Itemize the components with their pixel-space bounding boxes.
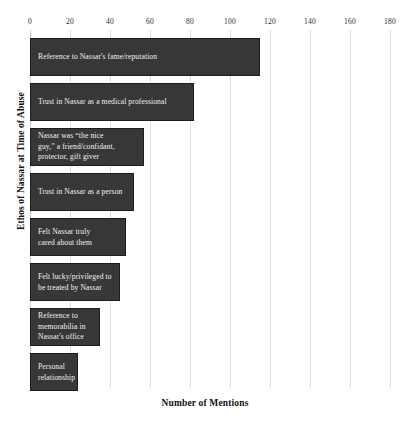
bar-1[interactable]: Trust in Nassar as a medical professiona…	[30, 83, 194, 121]
bar-label-line: guy,” a friend/confidant,	[38, 142, 139, 153]
bar-label-line: Nassar was “the nice	[38, 131, 139, 142]
bar-label-4: Felt Nassar truly cared about them	[38, 227, 121, 248]
gridline-160	[350, 30, 351, 388]
x-tick-label-180: 180	[384, 17, 396, 26]
gridline-100	[230, 30, 231, 388]
bar-label-line: Felt lucky/privileged to	[38, 272, 115, 283]
x-tick-label-0: 0	[28, 17, 32, 26]
bar-label-line: relationship	[38, 372, 73, 383]
bar-7[interactable]: Personal relationship	[30, 353, 78, 391]
bar-label-1: Trust in Nassar as a medical professiona…	[38, 97, 189, 108]
bar-label-line: Reference to Nassar's fame/reputation	[38, 52, 255, 63]
gridline-140	[310, 30, 311, 388]
gridline-180	[390, 30, 391, 388]
bar-label-line: memorabilia in	[38, 322, 95, 333]
bar-3[interactable]: Trust in Nassar as a person	[30, 173, 134, 211]
bar-label-line: Nassar's office	[38, 332, 95, 343]
x-tick-label-140: 140	[304, 17, 316, 26]
plot-area: Reference to Nassar's fame/reputation Tr…	[30, 30, 390, 388]
x-tick-label-100: 100	[224, 17, 236, 26]
bar-0[interactable]: Reference to Nassar's fame/reputation	[30, 38, 260, 76]
bar-chart: Ethos of Nassar at Time of Abuse 0 20 40…	[0, 0, 410, 423]
gridline-120	[270, 30, 271, 388]
x-axis-tick-labels: 0 20 40 60 80 100 120 140 160 180	[30, 17, 390, 29]
bar-label-line: Felt Nassar truly	[38, 227, 121, 238]
bar-6[interactable]: Reference to memorabilia in Nassar's off…	[30, 308, 100, 346]
bar-label-line: Personal	[38, 362, 73, 373]
bar-label-3: Trust in Nassar as a person	[38, 187, 129, 198]
x-tick-label-40: 40	[106, 17, 114, 26]
bar-label-6: Reference to memorabilia in Nassar's off…	[38, 311, 95, 343]
x-tick-label-120: 120	[264, 17, 276, 26]
bar-label-line: be treated by Nassar	[38, 282, 115, 293]
bar-label-0: Reference to Nassar's fame/reputation	[38, 52, 255, 63]
bar-label-line: cared about them	[38, 237, 121, 248]
bar-label-5: Felt lucky/privileged to be treated by N…	[38, 272, 115, 293]
bar-5[interactable]: Felt lucky/privileged to be treated by N…	[30, 263, 120, 301]
bar-4[interactable]: Felt Nassar truly cared about them	[30, 218, 126, 256]
bar-label-line: Reference to	[38, 311, 95, 322]
x-tick-label-60: 60	[146, 17, 154, 26]
bar-label-line: Trust in Nassar as a person	[38, 187, 129, 198]
bar-label-line: Trust in Nassar as a medical professiona…	[38, 97, 189, 108]
bar-label-7: Personal relationship	[38, 362, 73, 383]
x-tick-label-20: 20	[66, 17, 74, 26]
x-axis-title: Number of Mentions	[0, 398, 410, 408]
bar-label-2: Nassar was “the nice guy,” a friend/conf…	[38, 131, 139, 163]
bar-2[interactable]: Nassar was “the nice guy,” a friend/conf…	[30, 128, 144, 166]
x-tick-label-80: 80	[186, 17, 194, 26]
y-axis-title: Ethos of Nassar at Time of Abuse	[16, 66, 26, 256]
bar-label-line: protector, gift giver	[38, 152, 139, 163]
x-tick-label-160: 160	[344, 17, 356, 26]
